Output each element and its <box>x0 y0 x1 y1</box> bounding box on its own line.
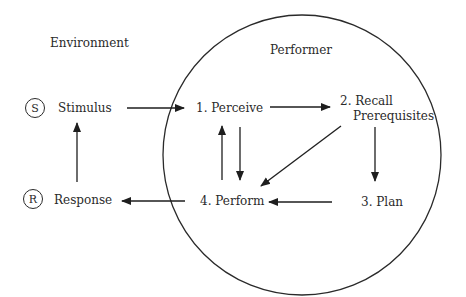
response-symbol-icon: R <box>23 189 43 209</box>
node-recall-line1: 2. Recall <box>340 94 393 108</box>
node-plan: 3. Plan <box>361 195 403 209</box>
response-label: Response <box>54 193 112 207</box>
environment-label: Environment <box>50 36 129 50</box>
node-perform: 4. Perform <box>200 194 264 208</box>
arrow-recall-to-perform <box>261 126 341 186</box>
stimulus-label: Stimulus <box>58 101 112 115</box>
node-recall-line2: Prerequisites <box>353 109 434 123</box>
stimulus-symbol-icon: S <box>25 98 45 118</box>
performer-label: Performer <box>270 43 332 57</box>
node-perceive: 1. Perceive <box>196 101 263 115</box>
